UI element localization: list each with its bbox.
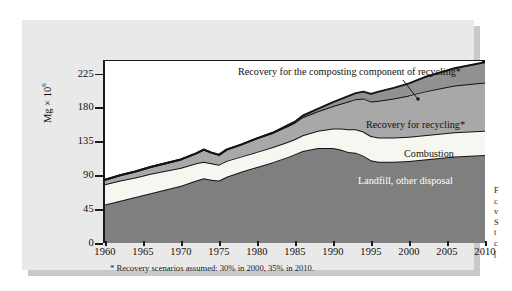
y-axis-title-text: Mg × 10 — [42, 87, 53, 123]
figure-screenshot: 04590135180225 Mg × 106 1960196519701975… — [0, 0, 512, 291]
series-label-recycling: Recovery for recycling* — [366, 119, 465, 130]
x-axis-tick — [219, 241, 221, 246]
side-caption-line: t — [494, 228, 512, 239]
x-axis-tick — [485, 241, 487, 246]
y-axis-tick — [95, 141, 103, 143]
footnote: * Recovery scenarios assumed: 30% in 200… — [110, 263, 314, 273]
figure-panel: 04590135180225 Mg × 106 1960196519701975… — [22, 20, 474, 270]
x-axis-tick-label: 2000 — [389, 246, 429, 257]
y-axis-tick — [95, 209, 103, 211]
y-axis-tick — [95, 175, 103, 177]
side-caption-line: v — [494, 207, 512, 218]
x-axis-tick-label: 1960 — [85, 246, 125, 257]
y-axis-tick-label: 180 — [54, 101, 94, 112]
y-axis-tick-label: 45 — [54, 203, 94, 214]
x-axis-tick-label: 1990 — [313, 246, 353, 257]
y-axis-tick — [95, 74, 103, 76]
series-label-combustion: Combustion — [404, 148, 454, 159]
side-caption-clipped: FcvStc[ — [494, 186, 512, 260]
x-axis-tick — [409, 241, 411, 246]
series-label-landfill: Landfill, other disposal — [358, 175, 453, 186]
y-axis-line — [103, 60, 105, 243]
x-axis-tick — [143, 241, 145, 246]
x-axis-tick-label: 1965 — [123, 246, 163, 257]
x-axis-tick — [257, 241, 259, 246]
x-axis-tick — [447, 241, 449, 246]
x-axis-tick — [333, 241, 335, 246]
x-axis-tick — [105, 241, 107, 246]
x-axis-tick — [295, 241, 297, 246]
y-axis-tick-label: 135 — [54, 135, 94, 146]
y-axis-tick — [95, 107, 103, 109]
x-axis-tick-label: 2005 — [427, 246, 467, 257]
y-axis-tick — [95, 243, 103, 245]
x-axis-tick-label: 1980 — [237, 246, 277, 257]
side-caption-line: [ — [494, 250, 512, 261]
y-axis-title: Mg × 106 — [40, 83, 53, 123]
y-axis-title-exponent: 6 — [40, 83, 48, 87]
side-caption-line: c — [494, 197, 512, 208]
y-axis-tick-label: 90 — [54, 169, 94, 180]
x-axis-tick — [371, 241, 373, 246]
side-caption-line: F — [494, 186, 512, 197]
side-caption-line: c — [494, 239, 512, 250]
x-axis-tick-label: 1995 — [351, 246, 391, 257]
series-label-composting: Recovery for the composting component of… — [238, 66, 461, 77]
y-axis-tick-label: 225 — [54, 68, 94, 79]
x-axis-tick — [181, 241, 183, 246]
x-axis-tick-label: 1985 — [275, 246, 315, 257]
composting-leader-dot — [416, 97, 420, 101]
side-caption-line: S — [494, 218, 512, 229]
x-axis-tick-label: 1975 — [199, 246, 239, 257]
area-landfill-other-disposal — [105, 148, 485, 243]
x-axis-tick-labels: 1960196519701975198019851990199520002005… — [105, 246, 485, 262]
x-axis-tick-label: 1970 — [161, 246, 201, 257]
